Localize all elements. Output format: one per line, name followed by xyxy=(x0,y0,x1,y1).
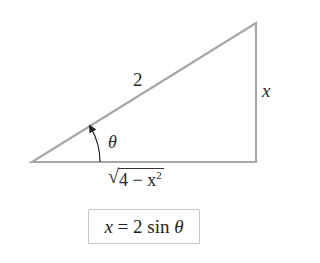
angle-arc-arrow xyxy=(91,128,100,162)
formula-box: x = 2 sin θ xyxy=(88,209,200,244)
angle-theta-label: θ xyxy=(108,132,117,153)
right-triangle xyxy=(32,23,256,162)
square-root-expression: √ 4 − x2 xyxy=(108,166,164,191)
formula-middle: = 2 sin xyxy=(113,216,174,238)
radicand: 4 − x2 xyxy=(118,168,164,191)
formula-variable: x xyxy=(104,216,112,238)
formula-angle: θ xyxy=(174,216,183,238)
radicand-exponent: 2 xyxy=(156,169,162,181)
adjacent-side-label: √ 4 − x2 xyxy=(108,166,164,191)
hypotenuse-label: 2 xyxy=(133,69,143,91)
opposite-side-label: x xyxy=(262,80,270,102)
radicand-base: 4 − x xyxy=(119,170,156,190)
